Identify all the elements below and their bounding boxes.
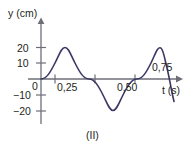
y-tick-label-20: 20 — [17, 43, 29, 54]
t-tick-label-075: 0,75 — [152, 62, 172, 73]
y-tick-label-0: 0 — [32, 81, 38, 92]
y-axis — [38, 18, 45, 125]
t-axis-title: t (s) — [162, 85, 180, 96]
y-tick-label-minus-20: −20 — [13, 106, 31, 117]
graph-figure: y (cm) t (s) 20 10 0 −10 −20 0,25 0,50 0… — [0, 0, 195, 146]
t-tick-label-025: 0,25 — [57, 82, 77, 93]
y-axis-title: y (cm) — [8, 8, 37, 19]
figure-caption: (II) — [86, 130, 99, 141]
y-tick-label-minus-10: −10 — [13, 90, 31, 101]
plot-canvas — [0, 0, 195, 146]
y-tick-label-10: 10 — [17, 58, 29, 69]
t-axis — [28, 75, 183, 82]
t-tick-label-050: 0,50 — [117, 82, 137, 93]
